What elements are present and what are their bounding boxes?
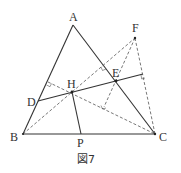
dashed-BF — [23, 38, 135, 134]
label-H: H — [67, 77, 76, 91]
figure-caption: 図7 — [77, 153, 95, 166]
point-E — [115, 80, 118, 83]
label-E: E — [112, 66, 119, 80]
point-F — [134, 37, 136, 39]
right-angle-mark-FC — [141, 75, 145, 79]
label-B: B — [10, 130, 18, 144]
right-angle-mark-AB — [47, 84, 52, 87]
segment-HP — [72, 92, 81, 134]
label-F: F — [132, 21, 139, 35]
point-H — [71, 91, 74, 94]
geometry-figure: A F E H D B P C 図7 — [0, 0, 181, 173]
right-angle-mark-HC — [101, 106, 106, 110]
label-A: A — [69, 10, 78, 24]
point-C — [154, 133, 156, 135]
dashed-perp-to-AB-through-C — [48, 82, 155, 134]
label-D: D — [27, 95, 36, 109]
segment-AB — [23, 25, 73, 134]
dashed-FC — [135, 38, 155, 134]
label-P: P — [77, 136, 84, 150]
label-C: C — [159, 130, 167, 144]
point-B — [22, 133, 24, 135]
